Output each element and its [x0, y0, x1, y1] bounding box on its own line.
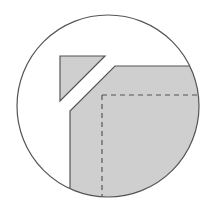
fabric-corner-shape	[70, 66, 210, 208]
mitered-corner-diagram	[0, 0, 212, 208]
